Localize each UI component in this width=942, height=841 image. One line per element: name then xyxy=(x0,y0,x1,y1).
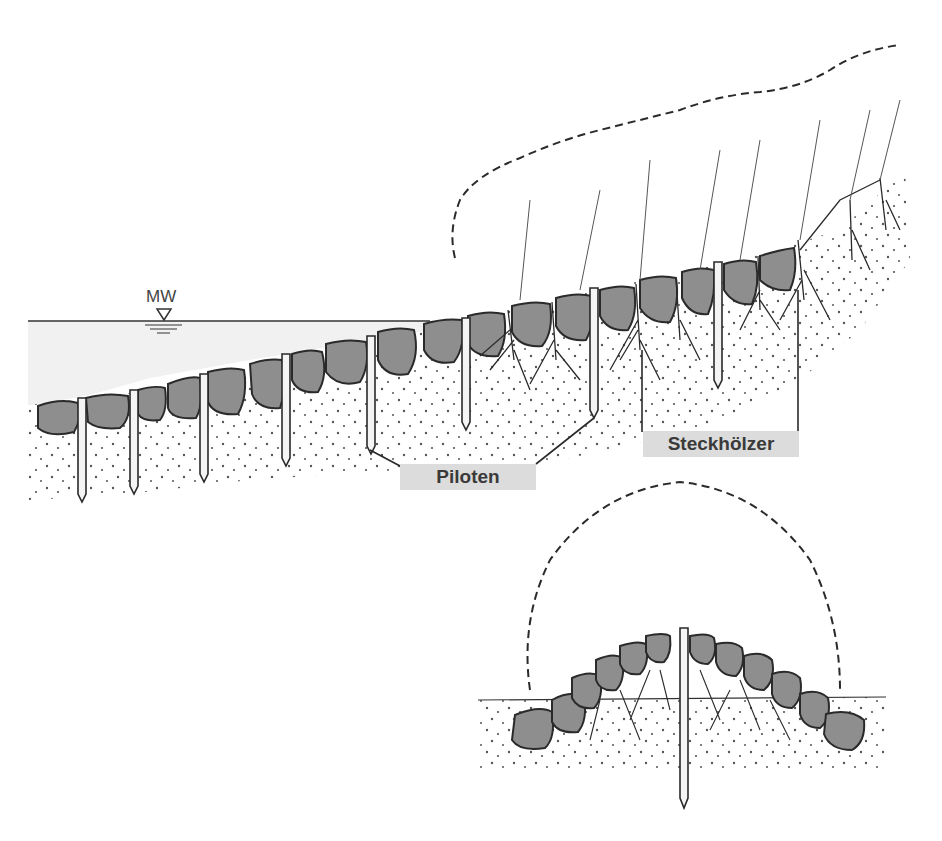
water-level-label: MW xyxy=(146,287,176,307)
piles-label: Piloten xyxy=(400,464,536,490)
detail-cross-section xyxy=(478,482,886,808)
cuttings-label: Steckhölzer xyxy=(643,431,799,457)
detail-central-pile xyxy=(680,628,688,808)
shrub-canopy-outline xyxy=(452,45,900,258)
bank-protection-diagram xyxy=(0,0,942,841)
